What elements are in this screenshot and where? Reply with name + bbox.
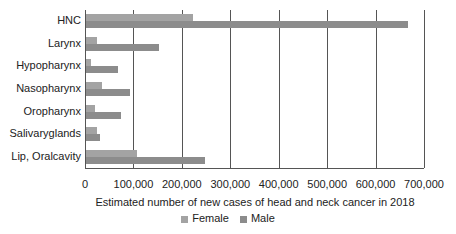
bar-male — [86, 89, 130, 96]
bar-male — [86, 157, 205, 164]
x-tick-label: 0 — [82, 178, 88, 190]
bar-female — [86, 82, 102, 89]
x-tick-label: 700,000 — [404, 178, 444, 190]
bar-male — [86, 66, 118, 73]
x-tick-label: 500,000 — [307, 178, 347, 190]
bar-male — [86, 21, 408, 28]
legend-item-female: Female — [181, 212, 229, 224]
category-label: Lip, Oralcavity — [11, 150, 81, 162]
bar-female — [86, 37, 97, 44]
category-label: Larynx — [48, 37, 81, 49]
x-axis-line — [85, 168, 424, 169]
gridline — [182, 10, 183, 168]
category-label: Salivaryglands — [9, 127, 81, 139]
gridline — [133, 10, 134, 168]
gridline — [279, 10, 280, 168]
bar-male — [86, 44, 159, 51]
bar-male — [86, 112, 121, 119]
bar-female — [86, 105, 95, 112]
bar-female — [86, 127, 97, 134]
category-label: Nasopharynx — [16, 82, 81, 94]
x-tick-label: 600,000 — [356, 178, 396, 190]
x-tick-label: 300,000 — [210, 178, 250, 190]
legend-item-male: Male — [240, 212, 275, 224]
x-tick-label: 400,000 — [259, 178, 299, 190]
gridline — [376, 10, 377, 168]
bar-male — [86, 134, 100, 141]
category-label: HNC — [57, 14, 81, 26]
female-swatch-icon — [181, 216, 188, 223]
x-tick-label: 200,000 — [162, 178, 202, 190]
category-label: Hypopharynx — [16, 59, 81, 71]
legend: Female Male — [0, 212, 456, 224]
gridline — [230, 10, 231, 168]
male-swatch-icon — [240, 216, 247, 223]
gridline — [327, 10, 328, 168]
x-tick-label: 100,000 — [114, 178, 154, 190]
bar-female — [86, 150, 137, 157]
category-label: Oropharynx — [24, 105, 81, 117]
x-axis-label: Estimated number of new cases of head an… — [85, 196, 425, 208]
bar-female — [86, 14, 193, 21]
gridline — [424, 10, 425, 168]
bar-female — [86, 59, 91, 66]
